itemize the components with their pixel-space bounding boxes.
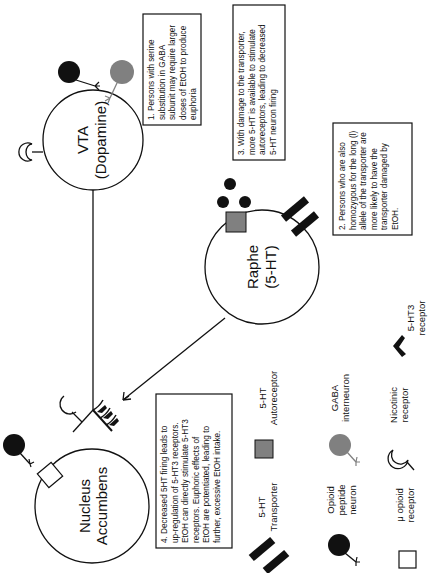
5ht3-receptor-icon [393,335,406,357]
note-4-line: up-regulation of 5-HT3 receptors. [171,422,180,543]
note-4-line: receptors. Euphoric effects of [192,436,201,543]
na-label: Nucleus [76,479,93,533]
opioid-neuron-icon [328,534,350,556]
legend-label: receptor [416,301,427,336]
legend-label: μ opioid [394,488,405,521]
note-1-line: euphoria [189,88,198,120]
note-1-line: subunit may require larger [168,25,177,120]
nicotinic-receptor-icon [19,143,43,161]
vta-label: VTA [74,126,91,154]
raphe-label: Raphe [244,245,261,289]
note-2-line: homozygous for the long (l) [349,131,358,230]
legend-label: Transporter [268,483,279,532]
note-2-line: transporter damaged by [380,142,389,230]
opioid-neuron-na-icon [3,434,34,467]
legend-label: neuron [347,485,358,515]
legend-label: receptor [399,388,410,423]
legend-label: 5-HT [256,496,267,517]
transporter-bars-icon [263,550,290,573]
legend-item-gaba: GABA interneuron [329,374,360,466]
note-4-line: EtOH are potentiated, leading to [202,426,211,543]
autoreceptor-square-icon [255,440,273,458]
vta-sublabel: (Dopamine) [92,101,109,179]
note-3-line: more 5-HT is available to stimulate [248,29,257,155]
legend-label: peptide [336,484,347,515]
note-2-line: EtOH. [391,208,400,230]
opioid-neuron-icon [58,61,100,90]
note-2-line: 2. Persons who are also [338,142,347,230]
legend-label: 5-HT [257,387,268,408]
note-4-line: 4. Decreased 5HT firing leads to [160,425,169,543]
legend-item-autoreceptor: 5-HT Autoreceptor [255,371,279,458]
nicotinic-receptor-icon [388,450,408,469]
postsynaptic-membrane [73,410,93,432]
diagram-canvas: VTA (Dopamine) 1. Persons with serine su… [0,0,440,573]
note-3-line: autoreceptors, leading to decreased [258,24,267,155]
transporter-bars-icon [249,537,276,561]
note-3-line: 3. With damage to the transporter, [237,31,246,155]
note-3-line: 5-HT neuron firing [269,89,278,155]
legend-item-5ht3: 5-HT3 receptor [393,301,427,357]
legend: 5-HT Transporter 5-HT Autoreceptor Opioi… [249,301,427,573]
legend-item-transporter: 5-HT Transporter [249,483,290,573]
gaba-neuron-icon [105,60,134,103]
note-2-line: allele of the transporter are [359,132,368,230]
note-1-line: substitution in GABA [158,44,167,120]
transporter-bars-icon [281,196,319,236]
legend-item-nicotinic: Nicotinic receptor [388,387,414,470]
legend-label: GABA [329,384,340,411]
legend-label: interneuron [340,374,351,422]
legend-label: receptor [405,488,416,523]
raphe-sublabel: (5-HT) [262,245,279,288]
legend-label: Opioid [325,486,336,513]
raphe-projection-line [123,318,225,400]
note-3-box: 3. With damage to the transporter, more … [233,5,285,160]
note-4-line: EtOH can directly stimulate 5-HT3 [181,419,190,543]
legend-label: Autoreceptor [268,371,279,425]
legend-label: 5-HT3 [405,305,416,331]
na-sublabel: Accumbens [93,467,110,545]
note-1-line: 1. Persons with serine [147,39,156,120]
legend-item-mu-receptor: μ opioid receptor [394,488,416,568]
serotonin-molecules-icon [217,178,251,208]
legend-label: Nicotinic [388,387,399,423]
nicotinic-receptor-na-icon [60,396,82,422]
note-2-line: more likely to have the [370,148,379,230]
note-1-box: 1. Persons with serine substitution in G… [143,14,201,125]
vta-node: VTA (Dopamine) [43,90,143,190]
mu-receptor-icon [37,462,62,487]
note-4-line: further, excessive EtOH intake. [213,431,222,543]
mu-receptor-icon [399,551,416,568]
note-4-box: 4. Decreased 5HT firing leads to up-regu… [156,394,232,548]
note-2-box: 2. Persons who are also homozygous for t… [333,123,412,235]
legend-item-opioid: Opioid peptide neuron [325,484,360,566]
autoreceptor-square-icon [226,212,246,232]
note-1-line: doses of EtOH to produce [179,25,188,120]
